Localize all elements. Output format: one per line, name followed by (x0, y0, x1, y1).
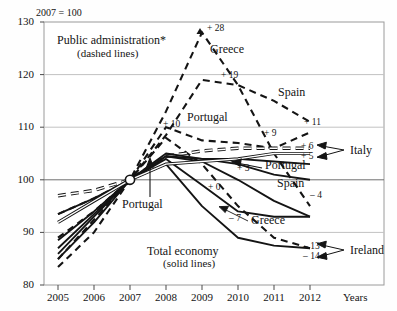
callout-label-portugal: Portugal (122, 197, 163, 212)
chart-container: 2007 = 100 130 120 110 100 90 80 2005 20… (0, 0, 397, 311)
value-label-plus-11: + 11 (304, 117, 321, 127)
y-tick-120: 120 (8, 68, 34, 80)
value-label-minus-13: – 13 (303, 241, 320, 251)
x-tick-2005: 2005 (38, 291, 78, 303)
x-tick-2011: 2011 (254, 291, 294, 303)
y-tick-130: 130 (8, 15, 34, 27)
value-label-plus-19: + 19 (221, 70, 238, 80)
base-year-note: 2007 = 100 (36, 7, 82, 18)
x-tick-2008: 2008 (146, 291, 186, 303)
series-label-portugal-total: Portugal (265, 158, 306, 173)
x-axis-label: Years (343, 291, 368, 303)
value-label-plus-10: + 10 (163, 119, 180, 129)
legend-total-economy-line2: (solid lines) (163, 257, 215, 269)
y-axis-ticks (40, 22, 44, 285)
value-label-plus-6: + 6 (301, 141, 313, 151)
x-tick-2006: 2006 (74, 291, 114, 303)
y-tick-110: 110 (8, 120, 34, 132)
value-label-minus-14: – 14 (303, 251, 320, 261)
y-tick-90: 90 (8, 225, 34, 237)
value-label-plus-0: + 0 (208, 182, 220, 192)
series-label-italy: Italy (350, 143, 372, 158)
x-tick-2012: 2012 (290, 291, 330, 303)
series-label-portugal-public: Portugal (187, 110, 228, 125)
x-tick-2010: 2010 (218, 291, 258, 303)
value-label-plus-9: + 9 (264, 128, 276, 138)
value-label-plus-5: + 5 (301, 151, 313, 161)
series-label-greece-public: Greece (210, 42, 244, 57)
x-tick-2009: 2009 (182, 291, 222, 303)
y-tick-80: 80 (8, 278, 34, 290)
value-label-plus-3: + 3 (237, 163, 249, 173)
series-label-ireland: Ireland (350, 243, 384, 258)
pivot-marker-2007 (125, 175, 134, 184)
x-axis-ticks (58, 285, 310, 290)
value-label-minus-7: – 7 (229, 213, 241, 223)
legend-public-administration-line2: (dashed lines) (77, 47, 138, 59)
series-label-greece-total: Greece (251, 213, 285, 228)
y-tick-100: 100 (8, 173, 34, 185)
series-label-spain-total: Spain (277, 176, 304, 191)
x-tick-2007: 2007 (110, 291, 150, 303)
series-label-spain-public: Spain (278, 85, 305, 100)
value-label-minus-4: – 4 (310, 190, 322, 200)
value-label-plus-28: + 28 (207, 23, 224, 33)
legend-public-administration-line1: Public administration* (57, 33, 166, 48)
